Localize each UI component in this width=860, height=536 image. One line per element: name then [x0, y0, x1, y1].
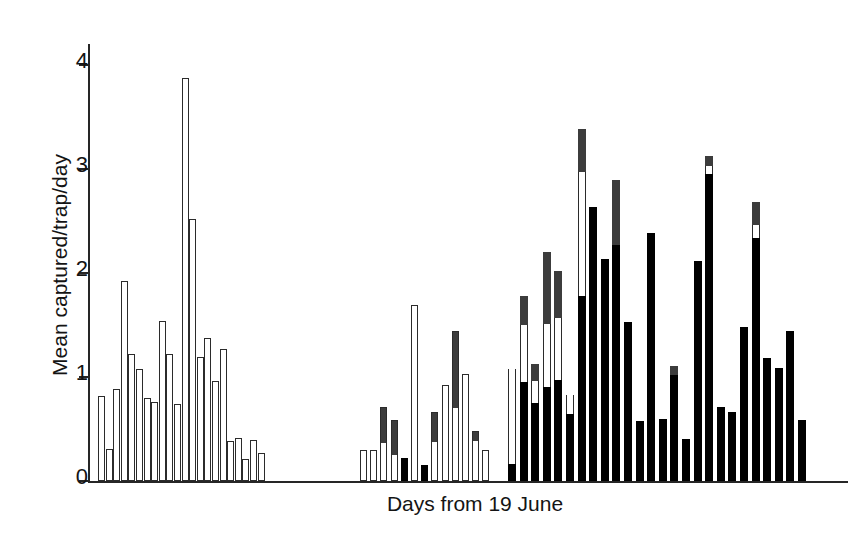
bar [624, 322, 632, 481]
bar [442, 385, 449, 481]
bar-segment-white [99, 397, 104, 480]
y-tick-label: 0 [60, 466, 88, 488]
bar-segment-black [670, 375, 678, 481]
bar [601, 259, 609, 481]
bar [543, 252, 551, 481]
bar-segment-white [259, 454, 264, 480]
bar [775, 368, 783, 481]
bar-segment-black [682, 439, 690, 481]
bar-segment-black [647, 233, 655, 481]
bar-segment-white [228, 442, 233, 480]
bar [740, 327, 748, 481]
bar-segment-black [401, 458, 408, 481]
bar-segment-white [221, 350, 226, 480]
bar-segment-gray [578, 129, 586, 172]
bar [472, 431, 479, 481]
bar-segment-white [145, 399, 150, 480]
bar-segment-gray [453, 332, 458, 408]
bar-segment-black [589, 207, 597, 481]
bar-segment-gray [752, 202, 760, 225]
chart-figure: Mean captured/trap/day 01234 Days from 1… [0, 0, 860, 536]
bar-segment-white [705, 166, 713, 174]
bar-segment-white [160, 322, 165, 480]
x-axis-line [88, 481, 848, 483]
bar-segment-white [213, 382, 218, 480]
bar-segment-black [421, 465, 428, 481]
bar [106, 449, 113, 481]
bar [166, 354, 173, 481]
bar-segment-black [624, 322, 632, 481]
bar-segment-white [175, 405, 180, 480]
y-tick-label: 2 [60, 258, 88, 280]
bar-segment-white [531, 381, 539, 403]
bar [227, 441, 234, 481]
bar [452, 331, 459, 481]
bar [578, 129, 586, 481]
bar [431, 412, 438, 481]
bar [554, 271, 562, 481]
bar [647, 233, 655, 481]
bar-segment-black [717, 407, 725, 481]
bar-segment-black [775, 368, 783, 481]
bar [482, 450, 489, 481]
bar-segment-black [601, 259, 609, 481]
bar-segment-black [531, 403, 539, 481]
bar-segment-white [137, 370, 142, 480]
bar [360, 450, 367, 481]
plot-area [90, 44, 848, 481]
bar [197, 357, 204, 481]
x-axis-label-wrap: Days from 19 June [0, 492, 860, 516]
bar [235, 438, 242, 481]
bar-segment-white [520, 325, 528, 382]
bar-segment-gray [554, 271, 562, 318]
bar-segment-gray [670, 366, 678, 375]
bar-segment-white [190, 220, 195, 480]
bar-segment-white [554, 318, 562, 380]
bar [763, 358, 771, 481]
bar [220, 349, 227, 481]
bar-segment-black [786, 331, 794, 481]
bar-segment-white [566, 395, 574, 415]
bar-segment-gray [392, 421, 397, 455]
bar-segment-white [578, 172, 586, 296]
bar [391, 420, 398, 481]
bar-segment-white [381, 443, 386, 480]
bar-segment-white [167, 355, 172, 480]
bar [370, 450, 377, 481]
bar [421, 465, 428, 481]
y-tick-label: 3 [60, 154, 88, 176]
bar [462, 374, 469, 481]
bar [589, 207, 597, 481]
bar-segment-white [752, 225, 760, 237]
bar [705, 156, 713, 481]
bar [121, 281, 128, 481]
bar-segment-gray [520, 296, 528, 325]
bar [258, 453, 265, 481]
bar [98, 396, 105, 481]
bar [531, 364, 539, 481]
bar-segment-black [612, 245, 620, 481]
bar-segment-black [763, 358, 771, 481]
bar [144, 398, 151, 481]
y-tick-label: 1 [60, 362, 88, 384]
bar [128, 354, 135, 481]
bar [151, 402, 158, 481]
bar-segment-white [361, 451, 366, 480]
bar-segment-gray [432, 413, 437, 441]
bar-segment-black [752, 238, 760, 481]
bar [411, 305, 418, 481]
bar-segment-white [152, 403, 157, 480]
bar [717, 407, 725, 481]
bar-segment-black [659, 419, 667, 481]
bar [136, 369, 143, 481]
bar [189, 219, 196, 481]
bar [636, 421, 644, 481]
bar-segment-black [520, 382, 528, 481]
bar [694, 261, 702, 481]
x-axis-label: Days from 19 June [297, 492, 563, 515]
bar-segment-black [798, 420, 806, 481]
bar-segment-white [371, 451, 376, 480]
bar-segment-white [205, 339, 210, 480]
bar-segment-black [508, 464, 516, 481]
bar [159, 321, 166, 481]
